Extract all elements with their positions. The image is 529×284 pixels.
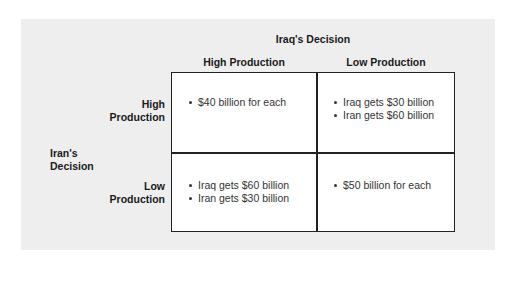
row-player-label-line2: Decision [50,160,94,173]
row-header-low-line1: Low [110,180,165,193]
payoff-bullet: $40 billion for each [187,96,286,109]
row-header-high-production: High Production [110,98,165,124]
row-player-label: Iran's Decision [50,147,94,173]
row-header-low-production: Low Production [110,180,165,206]
row-header-high-line2: Production [110,111,165,124]
cell-high-high: $40 billion for each [187,96,286,109]
payoff-bullet: Iran gets $60 billion [332,109,434,122]
row-header-high-line1: High [110,98,165,111]
cell-low-low: $50 billion for each [332,179,431,192]
cell-iran-high-iraq-low: Iraq gets $30 billion Iran gets $60 bill… [332,96,434,122]
column-header-high-production: High Production [171,56,317,68]
row-player-label-line1: Iran's [50,147,94,160]
payoff-bullet: Iraq gets $60 billion [187,179,289,192]
payoff-bullet: Iran gets $30 billion [187,192,289,205]
payoff-bullet: $50 billion for each [332,179,431,192]
background-panel: Iraq's Decision High Production Low Prod… [21,19,495,250]
column-header-low-production: Low Production [317,56,455,68]
payoff-bullet: Iraq gets $30 billion [332,96,434,109]
cell-iran-low-iraq-high: Iraq gets $60 billion Iran gets $30 bill… [187,179,289,205]
column-player-label: Iraq's Decision [171,33,455,45]
payoff-matrix: $40 billion for each Iraq gets $30 billi… [171,72,455,232]
matrix-horizontal-divider [172,152,454,154]
row-header-low-line2: Production [110,193,165,206]
